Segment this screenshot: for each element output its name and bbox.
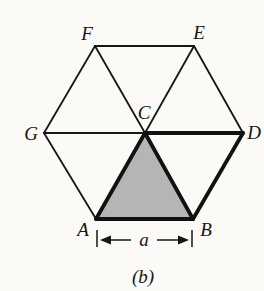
vertex-label-a: A	[75, 219, 89, 240]
vertex-label-e: E	[192, 22, 205, 43]
dimension-label-a: a	[139, 229, 149, 250]
vertex-label-b: B	[200, 219, 212, 240]
vertex-label-g: G	[24, 123, 38, 144]
figure-canvas: F E G D C A B a (b)	[0, 0, 264, 291]
hexagon-geometry-figure: F E G D C A B a (b)	[0, 0, 264, 291]
vertex-label-f: F	[80, 23, 93, 44]
vertex-label-d: D	[246, 122, 261, 143]
figure-caption: (b)	[132, 266, 154, 288]
figure-background	[0, 0, 264, 291]
vertex-label-c: C	[138, 102, 151, 123]
